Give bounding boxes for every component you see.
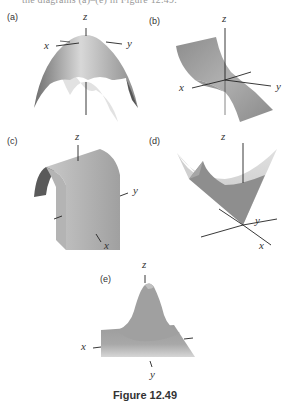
panel-d-label: (d) [149,136,160,146]
panel-c: (c) z y x [0,125,145,255]
panel-b-y-label: y [276,80,281,92]
panel-a-label: (a) [7,12,18,22]
panel-a: (a) z x y [0,0,145,125]
panel-e-x-label: x [81,340,86,352]
panel-c-x-label: x [104,239,109,251]
panel-d-x-label: x [259,239,264,251]
panel-a-y-label: y [127,37,132,49]
panel-e-z-label: z [142,258,146,270]
panel-d: (d) z y x [145,125,290,255]
panel-e-label: (e) [100,274,111,284]
panel-a-x-label: x [44,39,49,51]
parabolic-cylinder-plot [0,125,145,255]
panel-d-z-label: z [221,130,225,142]
panel-b-label: (b) [149,16,160,26]
panel-b-x-label: x [179,81,184,93]
panel-e-y-label: y [150,368,155,380]
gaussian-surface-plot [60,255,230,385]
dome-surface-plot [0,0,145,125]
panel-c-y-label: y [133,184,138,196]
panel-c-z-label: z [75,130,79,142]
saddle-surface-plot [145,0,290,125]
panel-b-z-label: z [222,12,226,24]
figure-caption: Figure 12.49 [0,389,290,401]
panel-e: (e) z x y [60,255,230,385]
panel-b: (b) z x y [145,0,290,125]
panel-a-z-label: z [83,10,87,22]
panel-c-label: (c) [7,136,18,146]
cone-surface-plot [145,125,290,255]
panel-d-y-label: y [255,214,260,226]
